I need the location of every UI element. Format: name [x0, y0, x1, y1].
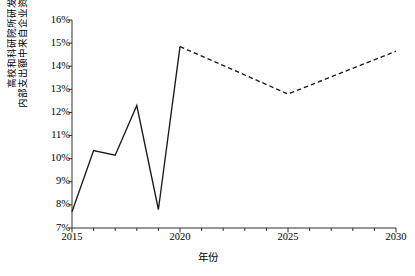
x-axis-tick-label: 2020	[160, 232, 200, 243]
x-axis-tick-label: 2025	[268, 232, 308, 243]
data-series-solid	[72, 47, 180, 212]
x-axis-tick-label: 2015	[52, 232, 92, 243]
data-series-dashed	[180, 47, 396, 94]
chart-figure: 高校和科研院所研发经费 内部支出额中来自企业资金的比例 7%8%9%10%11%…	[0, 0, 415, 276]
x-axis-title: 年份	[0, 249, 415, 264]
x-axis-tick-label: 2030	[376, 232, 415, 243]
